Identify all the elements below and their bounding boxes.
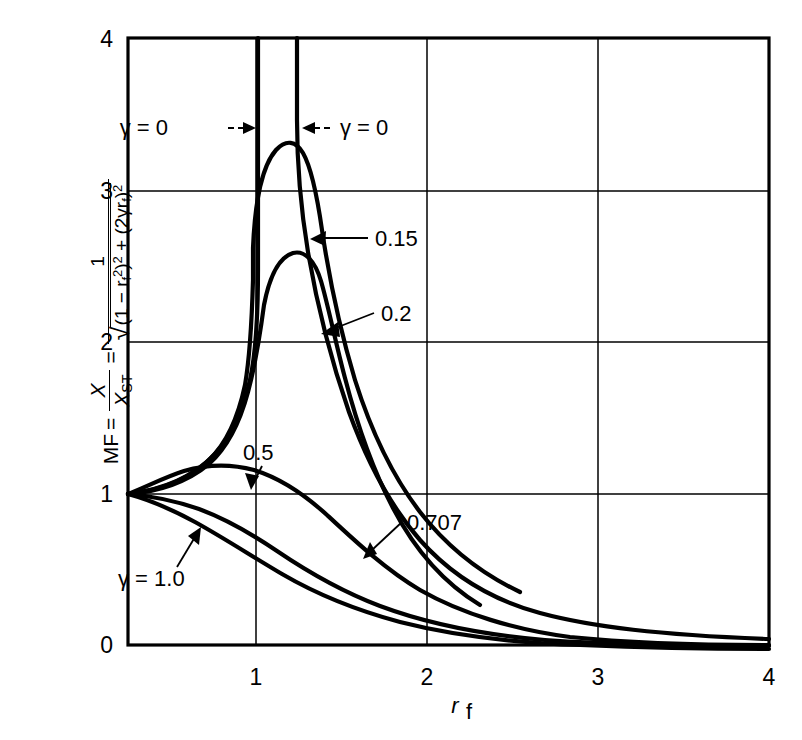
radicand-part-a-sup: 2 [110,270,125,277]
curves [128,38,769,649]
radical-sign-icon: √ [110,326,134,340]
annotation-damping-0-5: 0.5 [243,440,274,465]
figure-page: γ = 0 γ = 0 0.15 0.2 0.5 0.707 γ = 1.0 0… [0,0,802,740]
radicand-part-a-sub: f [119,277,134,281]
y-axis-formula-numerator: 1 [88,252,108,271]
arrowhead-gamma-zero-right [302,122,315,134]
y-axis-eq2: = [100,351,121,363]
annotation-gamma-one: γ = 1.0 [118,566,185,591]
curve-gamma-0-5 [128,466,769,645]
annotation-gamma-zero-right: γ = 0 [340,115,388,140]
y-axis-mf: MF [100,434,121,464]
y-axis-ratio-fraction: X XST [87,370,134,410]
radicand-part-b: ) [111,263,132,269]
arrowhead-gamma-zero-left [243,122,256,134]
x-axis-title-sub: f [466,699,473,724]
radicand-part-a: (1 − r [111,281,132,326]
radicand-part-c: + (2γr [111,202,132,256]
y-tick-label-0: 0 [100,632,113,658]
y-axis-ratio-den-sub: ST [119,374,135,392]
annotation-damping-0-15: 0.15 [375,226,418,251]
y-tick-label-4: 4 [100,26,113,52]
annotation-damping-0-2: 0.2 [381,301,412,326]
arrowhead-gamma-one [188,527,201,545]
x-tick-label-3: 3 [592,664,605,690]
radicand-part-b-sup: 2 [110,256,125,263]
arrowhead-0-15 [310,231,326,246]
x-tick-label-2: 2 [421,664,434,690]
y-axis-formula-fraction: 1 √ (1 − rf2)2 + (2γrf)2 [88,179,134,344]
curve-gamma-0-left [128,38,258,494]
y-axis-title: MF = X XST = 1 √ (1 − rf2)2 + (2γrf)2 [81,105,141,535]
leader-0-707 [372,522,402,550]
y-axis-eq1: = [100,418,121,430]
x-axis-title-main: r [451,693,460,718]
x-axis-title: r f [451,693,473,724]
y-axis-ratio-denominator: XST [109,370,134,410]
annotation-leaders [177,122,402,567]
y-axis-ratio-numerator: X [87,380,109,402]
x-tick-label-1: 1 [250,664,263,690]
gridlines [128,38,769,645]
y-axis-formula-denominator: √ (1 − rf2)2 + (2γrf)2 [108,179,134,344]
leader-gamma-one [177,537,195,567]
annotation-damping-0-707: 0.707 [407,510,462,535]
y-axis-ratio-den-main: X [110,393,133,407]
radicand-part-c-sub: f [119,198,134,202]
radicand-part-d: ) [111,192,132,198]
x-tick-label-4: 4 [763,664,776,690]
y-axis-radical: √ (1 − rf2)2 + (2γrf)2 [110,183,134,340]
radicand-part-d-sup: 2 [110,185,125,192]
y-axis-radical-body: (1 − rf2)2 + (2γrf)2 [110,183,134,328]
